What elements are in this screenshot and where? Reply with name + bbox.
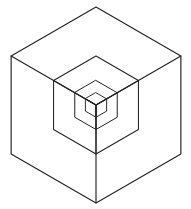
figure-canvas	[0, 0, 191, 209]
recursive-hexagon-figure	[0, 0, 191, 209]
